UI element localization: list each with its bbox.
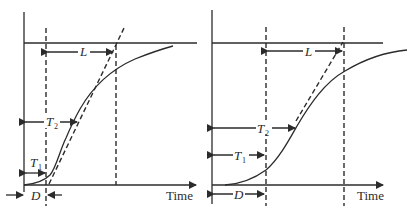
right-l-label: L (304, 44, 312, 59)
right-t1-label: T (234, 148, 242, 163)
right-t2-subscript: 2 (265, 129, 269, 138)
left-d-label: D (30, 188, 41, 203)
left-panel: L T 2 T 1 D Time (6, 12, 197, 206)
right-t1-subscript: 1 (242, 156, 246, 165)
right-x-axis-label: Time (357, 188, 384, 203)
right-d-label: D (233, 187, 244, 202)
right-panel: L T 2 T 1 D Time (212, 10, 407, 206)
left-l-label: L (79, 44, 87, 59)
left-x-axis-label: Time (166, 188, 193, 203)
left-t2-label: T (46, 114, 54, 129)
left-t1-subscript: 1 (38, 163, 42, 172)
left-t1-label: T (30, 155, 38, 170)
right-t2-label: T (257, 121, 265, 136)
right-response-curve (225, 50, 407, 185)
left-t2-subscript: 2 (54, 122, 58, 131)
step-response-diagram: L T 2 T 1 D Time L (0, 0, 415, 216)
